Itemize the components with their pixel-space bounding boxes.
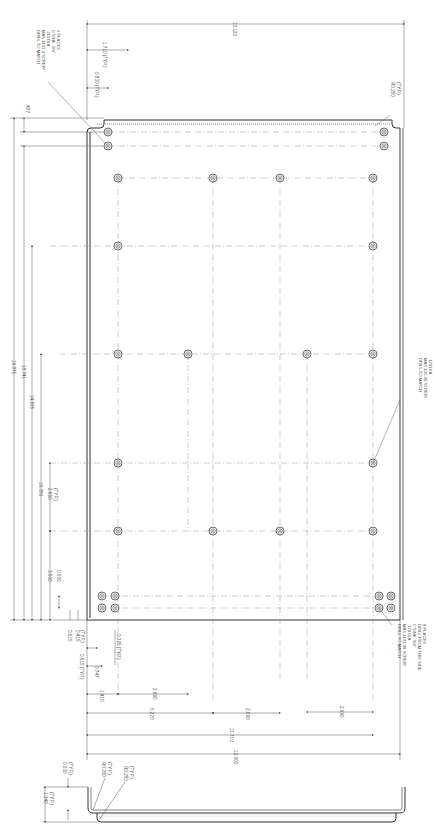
holes-grid [114, 174, 377, 535]
section-view [88, 787, 405, 822]
svg-text:13.120: 13.120 [232, 22, 237, 36]
svg-text:2.690: 2.690 [339, 706, 344, 718]
svg-text:(TYP.): (TYP.) [53, 488, 58, 501]
svg-text:14.875: 14.875 [29, 395, 34, 409]
svg-text:(TYP.): (TYP.) [80, 630, 85, 643]
svg-text:DRILL TO MATCH: DRILL TO MATCH [36, 30, 41, 64]
svg-text:.170 DIA: .170 DIA [428, 358, 433, 375]
svg-text:18.741: 18.741 [21, 365, 26, 379]
holes-top-corner [104, 128, 388, 150]
svg-text:0.500: 0.500 [56, 570, 61, 582]
svg-text:8 PLACES: 8 PLACES [422, 624, 427, 644]
svg-text:MAS 1102-3 SCREW: MAS 1102-3 SCREW [41, 30, 46, 70]
svg-text:0.415: 0.415 [75, 630, 80, 642]
svg-text:3.500: 3.500 [47, 570, 52, 582]
dimension-lines [10, 20, 404, 760]
svg-text:R0.250: R0.250 [123, 766, 128, 781]
section-dimensions [43, 778, 125, 822]
engineering-drawing: 13.120 1.710 (TYP.) 0.830 (TYP.) R0.250 … [0, 0, 436, 826]
svg-text:1.710 (TYP.): 1.710 (TYP.) [102, 42, 107, 68]
svg-text:0.615 (TYP.): 0.615 (TYP.) [79, 654, 84, 680]
svg-text:5.270: 5.270 [149, 708, 154, 720]
svg-text:0.747: 0.747 [94, 666, 99, 678]
plate-outline [87, 120, 403, 620]
svg-text:.437: .437 [25, 104, 30, 113]
svg-text:R0.200: R0.200 [101, 762, 106, 777]
holes-bottom-corner [98, 592, 395, 612]
svg-text:0.375 (TYP.): 0.375 (TYP.) [116, 634, 121, 660]
svg-text:1.410: 1.410 [99, 690, 104, 702]
svg-text:1.340: 1.340 [43, 792, 48, 804]
svg-text:19.875: 19.875 [11, 360, 16, 374]
svg-text:DRILL TO MATCH: DRILL TO MATCH [418, 358, 423, 392]
svg-text:MAS 1102-08 SCREW: MAS 1102-08 SCREW [402, 624, 407, 666]
note-right-middle: DRILL TO MATCH MAS 102-08 SCREW .170 DIA [418, 358, 433, 398]
svg-text:0.030: 0.030 [62, 762, 67, 774]
svg-text:0.615: 0.615 [67, 630, 72, 642]
leader-lines [48, 82, 400, 625]
svg-text:4 PLACES: 4 PLACES [56, 30, 61, 50]
note-top-left: DRILL TO MATCH MAS 1102-3 SCREW .213 DIA… [36, 30, 61, 70]
svg-text:R0.250: R0.250 [390, 82, 395, 97]
svg-text:.170 DIA: .170 DIA [407, 624, 412, 641]
svg-text:11.710: 11.710 [229, 728, 234, 742]
svg-text:(TYP.): (TYP.) [107, 762, 112, 775]
svg-text:C'SINK .007: C'SINK .007 [412, 624, 417, 648]
svg-text:2.690: 2.690 [152, 688, 157, 700]
svg-text:(TYP.): (TYP.) [49, 792, 54, 805]
svg-text:DRILL FROM THIS SIDE: DRILL FROM THIS SIDE [417, 624, 422, 671]
svg-text:12.000: 12.000 [233, 750, 238, 764]
hole-centerlines [50, 132, 392, 700]
svg-text:(TYP.): (TYP.) [396, 82, 401, 95]
svg-text:.213 DIA: .213 DIA [46, 30, 51, 47]
svg-text:10.380: 10.380 [38, 482, 43, 496]
svg-text:MAS 102-08 SCREW: MAS 102-08 SCREW [423, 358, 428, 398]
svg-text:(TYP.): (TYP.) [68, 762, 73, 775]
svg-text:2.690: 2.690 [47, 488, 52, 500]
dimension-text: 13.120 1.710 (TYP.) 0.830 (TYP.) R0.250 … [11, 22, 401, 764]
svg-text:DRILL TO MATCH: DRILL TO MATCH [397, 624, 402, 658]
svg-text:0.830 (TYP.): 0.830 (TYP.) [94, 72, 99, 98]
svg-text:C'SINK .007: C'SINK .007 [51, 30, 56, 54]
note-bottom-right: DRILL TO MATCH MAS 1102-08 SCREW .170 DI… [397, 624, 427, 671]
svg-text:2.690: 2.690 [245, 708, 250, 720]
svg-text:(TYP.): (TYP.) [129, 766, 134, 779]
